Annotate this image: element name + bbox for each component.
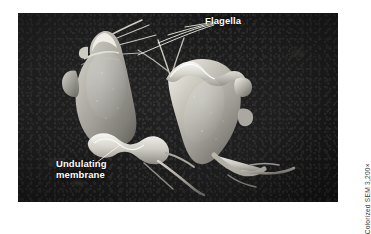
label-flagella: Flagella <box>205 16 241 27</box>
magnification-credit: Colorized SEM 3,200× <box>364 163 371 234</box>
label-undulating-membrane: Undulating membrane <box>56 159 107 180</box>
micrograph-panel: Flagella Undulating membrane <box>18 13 338 202</box>
